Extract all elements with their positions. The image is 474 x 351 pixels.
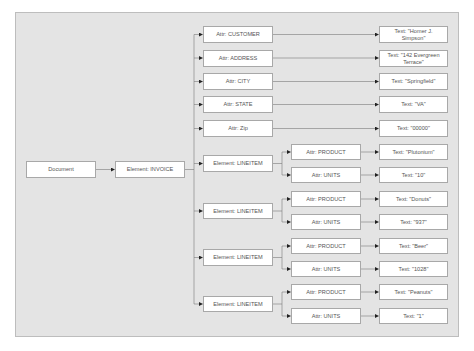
lineitem-element-node: Element: LINEITEM: [203, 249, 273, 266]
attr-city-node: Attr: CITY: [203, 73, 273, 90]
text-address-node: Text: "142 Evergreen Terrace": [379, 50, 448, 67]
text-product-node: Text: "Donuts": [379, 191, 448, 207]
text-units-node: Text: "1": [379, 308, 448, 324]
text-units-node: Text: "937": [379, 214, 448, 230]
text-product-node: Text: "Peanuts": [379, 284, 448, 300]
lineitem-element-node: Element: LINEITEM: [203, 203, 273, 219]
attr-units-node: Attr: UNITS: [291, 261, 361, 277]
text-customer-node: Text: "Homer J. Simpson": [379, 26, 448, 43]
text-state-node: Text: "VA": [379, 96, 448, 113]
attr-customer-node: Attr: CUSTOMER: [203, 26, 273, 43]
attr-product-node: Attr: PRODUCT: [291, 191, 361, 207]
text-product-node: Text: "Beer": [379, 238, 448, 254]
text-zip-node: Text: "00000": [379, 120, 448, 137]
text-product-node: Text: "Plutonium": [379, 144, 448, 160]
invoice-element-node: Element: INVOICE: [115, 161, 185, 178]
text-units-node: Text: "1028": [379, 261, 448, 277]
attr-address-node: Attr: ADDRESS: [203, 50, 273, 67]
text-city-node: Text: "Springfield": [379, 73, 448, 90]
text-units-node: Text: "10": [379, 167, 448, 183]
attr-units-node: Attr: UNITS: [291, 214, 361, 230]
attr-product-node: Attr: PRODUCT: [291, 144, 361, 160]
lineitem-element-node: Element: LINEITEM: [203, 296, 273, 312]
attr-product-node: Attr: PRODUCT: [291, 238, 361, 254]
document-node: Document: [26, 161, 96, 178]
attr-state-node: Attr: STATE: [203, 96, 273, 113]
attr-product-node: Attr: PRODUCT: [291, 284, 361, 300]
lineitem-element-node: Element: LINEITEM: [203, 155, 273, 172]
attr-units-node: Attr: UNITS: [291, 167, 361, 183]
attr-units-node: Attr: UNITS: [291, 308, 361, 324]
attr-zip-node: Attr: Zip: [203, 120, 273, 137]
